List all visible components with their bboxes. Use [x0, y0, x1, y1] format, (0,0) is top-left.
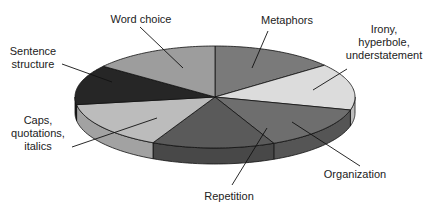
- pie-chart: MetaphorsIrony,hyperbole,understatementO…: [0, 0, 433, 210]
- slice-label-line: Caps,: [24, 114, 53, 126]
- slice-label-line: understatement: [346, 49, 422, 61]
- slice-label-line: Irony,: [371, 23, 398, 35]
- slice-label-line: structure: [12, 58, 55, 70]
- slice-label-line: hyperbole,: [358, 36, 409, 48]
- slice-label-line: Repetition: [204, 190, 254, 202]
- slice-label: Caps,quotations,italics: [11, 114, 65, 152]
- slice-label-line: Metaphors: [261, 14, 313, 26]
- slice-label: Organization: [324, 168, 386, 180]
- slice-label-line: Word choice: [111, 13, 172, 25]
- slice-label: Sentencestructure: [10, 45, 56, 70]
- pie-slices: [75, 46, 355, 148]
- slice-label-line: italics: [24, 140, 52, 152]
- slice-label-line: quotations,: [11, 127, 65, 139]
- slice-label: Word choice: [111, 13, 172, 25]
- slice-label-line: Sentence: [10, 45, 56, 57]
- slice-label: Irony,hyperbole,understatement: [346, 23, 422, 61]
- slice-label-line: Organization: [324, 168, 386, 180]
- slice-label: Repetition: [204, 190, 254, 202]
- slice-label: Metaphors: [261, 14, 313, 26]
